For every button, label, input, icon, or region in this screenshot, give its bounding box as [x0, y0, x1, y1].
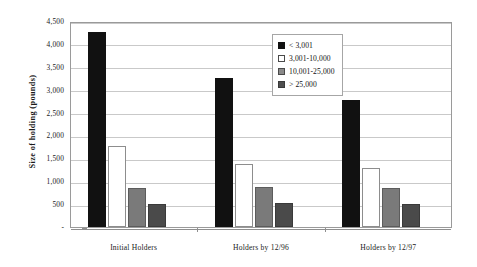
x-axis-group-label: Holders by 12/97	[325, 243, 452, 252]
bar	[402, 204, 420, 227]
bar	[342, 100, 360, 227]
bar	[215, 78, 233, 227]
legend-label: < 3,001	[289, 41, 313, 50]
gridline	[71, 229, 451, 230]
y-axis-tick-label: 4,500	[20, 18, 64, 26]
gridline	[71, 68, 451, 69]
bar	[275, 203, 293, 227]
y-axis-tick-label: 1,000	[20, 178, 64, 186]
y-axis-tick-label: 1,500	[20, 155, 64, 163]
y-axis-tick-label: 3,500	[20, 64, 64, 72]
plot-area	[70, 22, 452, 228]
bar	[235, 164, 253, 227]
bar	[128, 188, 146, 227]
bar	[362, 168, 380, 228]
gridline	[71, 137, 451, 138]
legend-swatch-icon	[278, 55, 285, 62]
x-axis-tick-mark	[325, 228, 326, 232]
gridline	[71, 160, 451, 161]
legend-swatch-icon	[278, 81, 285, 88]
y-axis-tick-label: 4,000	[20, 41, 64, 49]
y-axis-tick-labels: -5001,0001,5002,0002,5003,0003,5004,0004…	[18, 0, 64, 267]
bar-chart-figure: Size of holding (pounds) -5001,0001,5002…	[0, 0, 477, 267]
gridline	[71, 91, 451, 92]
legend-label: 3,001-10,000	[289, 54, 331, 63]
bar	[88, 32, 106, 227]
bar	[148, 204, 166, 227]
bar	[255, 187, 273, 227]
x-axis-tick-mark	[197, 228, 198, 232]
legend-item: < 3,001	[278, 39, 335, 52]
gridline	[71, 45, 451, 46]
y-axis-tick-label: 2,000	[20, 132, 64, 140]
gridline	[71, 183, 451, 184]
legend-item: 10,001-25,000	[278, 65, 335, 78]
gridline	[71, 23, 451, 24]
x-axis-group-label: Holders by 12/96	[197, 243, 324, 252]
legend-label: > 25,000	[289, 80, 317, 89]
y-axis-tick-label: 2,500	[20, 110, 64, 118]
y-axis-tick-label: 500	[20, 201, 64, 209]
chart-legend: < 3,0013,001-10,00010,001-25,000> 25,000	[272, 34, 343, 96]
legend-item: > 25,000	[278, 78, 335, 91]
legend-item: 3,001-10,000	[278, 52, 335, 65]
x-axis-group-label: Initial Holders	[70, 243, 197, 252]
bar	[108, 146, 126, 227]
y-axis-tick-label: 3,000	[20, 87, 64, 95]
bar	[382, 188, 400, 227]
legend-swatch-icon	[278, 42, 285, 49]
y-axis-tick-label: -	[20, 224, 64, 232]
gridline	[71, 114, 451, 115]
legend-label: 10,001-25,000	[289, 67, 335, 76]
legend-swatch-icon	[278, 68, 285, 75]
